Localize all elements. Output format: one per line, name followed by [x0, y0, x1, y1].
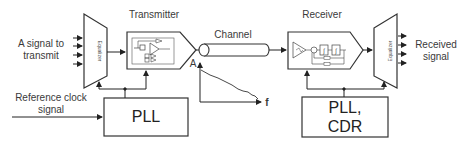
- right-equalizer-label: Equalizer: [387, 40, 393, 61]
- svg-text:∫: ∫: [334, 48, 337, 55]
- reference-clock-line2: signal: [8, 104, 94, 116]
- left-pll-label: PLL: [104, 107, 188, 126]
- transmitter-title: Transmitter: [122, 9, 186, 21]
- output-arrows: [398, 36, 406, 63]
- receiver-title: Receiver: [292, 9, 352, 21]
- output-label-line1: Received: [408, 39, 464, 51]
- receiver-block: ∫ ∫: [288, 32, 363, 69]
- input-label-line1: A signal to: [8, 38, 74, 50]
- left-equalizer: Equalizer: [84, 14, 107, 88]
- right-pll-line1: PLL,: [302, 98, 388, 117]
- attenuation-graph: [200, 63, 261, 102]
- graph-y-axis-label: A: [188, 58, 198, 70]
- graph-x-axis-label: f: [262, 97, 272, 109]
- right-equalizer: Equalizer: [374, 14, 397, 88]
- input-label-line2: transmit: [8, 50, 74, 62]
- left-equalizer-label: Equalizer: [97, 41, 103, 62]
- reference-clock-label: Reference clock signal: [8, 92, 94, 116]
- right-pll-line2: CDR: [302, 117, 388, 136]
- input-signal-label: A signal to transmit: [8, 38, 74, 62]
- diagram-canvas: Equalizer: [0, 0, 465, 144]
- received-signal-label: Received signal: [408, 39, 464, 63]
- svg-text:∫: ∫: [322, 48, 325, 55]
- channel-cable: [196, 44, 286, 56]
- transmitter-block: [127, 32, 196, 69]
- output-label-line2: signal: [408, 51, 464, 63]
- reference-clock-line1: Reference clock: [8, 92, 94, 104]
- channel-title: Channel: [208, 29, 258, 41]
- right-pll-label: PLL, CDR: [302, 98, 388, 136]
- input-arrows: [73, 38, 82, 64]
